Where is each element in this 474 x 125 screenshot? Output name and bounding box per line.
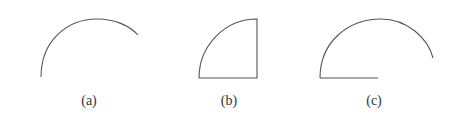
panel-label-c: (c) [366, 93, 382, 109]
panel-c: (c) [320, 19, 433, 109]
large-arc [320, 19, 433, 78]
panel-a: (a) [41, 19, 138, 109]
open-arc [41, 19, 138, 77]
panel-label-b: (b) [221, 93, 238, 109]
quarter-circle-sector [199, 19, 257, 78]
panel-b: (b) [199, 19, 257, 109]
panel-label-a: (a) [81, 93, 97, 109]
figure-canvas: (a) (b) (c) [0, 0, 474, 125]
